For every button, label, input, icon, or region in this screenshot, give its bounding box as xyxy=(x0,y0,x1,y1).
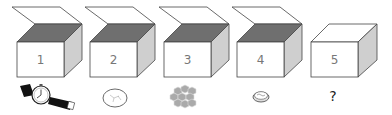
box-label: 4 xyxy=(257,53,265,67)
box-label: 1 xyxy=(37,53,45,67)
box-3: 3 xyxy=(159,7,229,77)
rock-icon xyxy=(103,89,127,107)
question-mark: ? xyxy=(329,88,336,104)
box-2: 2 xyxy=(85,7,155,77)
honeycomb-icon xyxy=(170,85,196,108)
box-1: 1 xyxy=(12,7,82,77)
box-5: 5 xyxy=(311,24,377,77)
boxes-diagram: 1 2 3 4 5 xyxy=(0,0,392,115)
box-label: 2 xyxy=(110,53,118,67)
box-label: 5 xyxy=(331,53,339,67)
box-lid xyxy=(12,7,82,24)
box-4: 4 xyxy=(232,7,302,77)
coin-icon xyxy=(253,92,269,102)
box-label: 3 xyxy=(184,53,192,67)
wristwatch-icon xyxy=(20,84,75,110)
